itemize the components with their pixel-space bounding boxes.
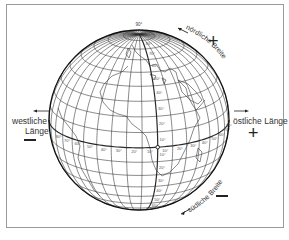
west-arrow-head-icon bbox=[33, 110, 37, 113]
meridian-tick-label-south: 10° bbox=[160, 152, 166, 157]
equator-tick-label-west: 30° bbox=[116, 148, 122, 153]
meridian-tick-label-north: 20° bbox=[159, 121, 165, 126]
meridian-tick-label-north: 30° bbox=[158, 106, 164, 111]
parallel-line bbox=[61, 73, 217, 101]
parallel-line bbox=[73, 181, 206, 196]
west-longitude-label-line1: westliche bbox=[12, 116, 47, 126]
west-minus-sign bbox=[24, 139, 36, 141]
north-plus-sign: + bbox=[208, 32, 219, 50]
meridian-tick-label-south: 40° bbox=[156, 188, 162, 193]
north-latitude-label: nördliche Breite bbox=[185, 23, 228, 59]
equator-tick-label-east: 20° bbox=[177, 146, 183, 151]
meridian-line bbox=[139, 34, 142, 210]
meridian-line bbox=[56, 34, 139, 190]
equator-tick-label-west: 60° bbox=[75, 141, 81, 146]
meridian-line bbox=[84, 34, 139, 207]
east-longitude-label: östliche Länge bbox=[233, 116, 288, 126]
meridian-tick-label-south: 20° bbox=[159, 165, 165, 170]
west-longitude-label-line2: Länge bbox=[25, 126, 49, 136]
origin-marker bbox=[156, 145, 160, 149]
meridian-tick-label-north: 40° bbox=[156, 90, 162, 95]
equator-tick-label-west: 50° bbox=[87, 144, 93, 149]
meridian-tick-label-north: 70° bbox=[149, 51, 155, 56]
equator-tick-label-west: 10° bbox=[147, 149, 153, 154]
meridian-line bbox=[139, 34, 225, 183]
parallel-line bbox=[70, 60, 208, 86]
britain-outline bbox=[126, 48, 131, 58]
south-minus-sign bbox=[216, 195, 228, 197]
equator-tick-label-west: 40° bbox=[101, 147, 107, 152]
graticule-lines bbox=[49, 30, 228, 210]
parallel-line bbox=[55, 153, 223, 176]
equator-tick-label-west: 80° bbox=[56, 134, 62, 139]
equator-tick-label-west: 20° bbox=[131, 149, 137, 154]
south-arrow-head-icon bbox=[181, 211, 185, 215]
equator-tick-label-east: 30° bbox=[190, 143, 196, 148]
meridian-tick-label-south: 50° bbox=[154, 197, 160, 202]
meridian-tick-label-north: 50° bbox=[154, 76, 160, 81]
equator-tick-label-east: 60° bbox=[219, 132, 225, 137]
meridian-line bbox=[126, 34, 139, 209]
meridian-tick-label-north: 80° bbox=[146, 41, 152, 46]
east-plus-sign: + bbox=[248, 124, 259, 142]
equator-tick-label-west: 70° bbox=[64, 138, 70, 143]
parallel-line bbox=[54, 88, 223, 117]
equator-tick-label-east: 40° bbox=[202, 140, 208, 145]
meridian-line bbox=[111, 34, 139, 209]
east-arrow-head-icon bbox=[245, 110, 249, 113]
meridian-tick-label-north: 10° bbox=[160, 137, 166, 142]
meridian-tick-label-south: 30° bbox=[158, 178, 164, 183]
meridian-tick-label-north: 60° bbox=[152, 63, 158, 68]
equator-tick-label-east: 50° bbox=[212, 136, 218, 141]
pole-label: 90° bbox=[136, 22, 143, 27]
